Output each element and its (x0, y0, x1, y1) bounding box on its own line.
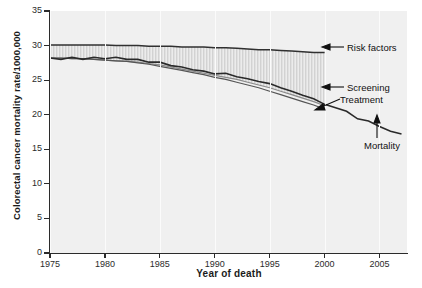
gridline-2000 (325, 11, 326, 253)
x-tick-1985 (159, 253, 160, 258)
gridline-1995 (270, 11, 271, 253)
annotation-treatment: Treatment (340, 94, 383, 105)
y-tick-35 (44, 10, 50, 11)
y-tick-20 (44, 114, 50, 115)
x-axis-line (49, 253, 408, 254)
y-tick-label-25: 25 (16, 74, 42, 84)
gridline-1980 (105, 11, 106, 253)
x-axis-title: Year of death (50, 268, 408, 279)
annotation-mortality: Mortality (364, 140, 400, 151)
gridline-1985 (160, 11, 161, 253)
y-tick-25 (44, 80, 50, 81)
y-tick-label-5: 5 (16, 212, 42, 222)
chart-figure: Colorectal cancer mortality rate/1000,00… (0, 0, 422, 288)
x-tick-2000 (324, 253, 325, 258)
y-tick-15 (44, 149, 50, 150)
y-tick-label-20: 20 (16, 109, 42, 119)
x-tick-1980 (104, 253, 105, 258)
y-tick-label-10: 10 (16, 178, 42, 188)
y-tick-label-15: 15 (16, 143, 42, 153)
y-tick-label-0: 0 (16, 247, 42, 257)
y-tick-30 (44, 45, 50, 46)
y-tick-5 (44, 218, 50, 219)
x-tick-2005 (379, 253, 380, 258)
gridline-1990 (215, 11, 216, 253)
annotation-screening: Screening (347, 82, 390, 93)
y-tick-10 (44, 183, 50, 184)
x-tick-1975 (49, 253, 50, 258)
y-tick-label-30: 30 (16, 40, 42, 50)
shaded-band (50, 45, 325, 106)
annotation-risk-factors: Risk factors (347, 42, 397, 53)
x-tick-1990 (214, 253, 215, 258)
x-tick-1995 (269, 253, 270, 258)
y-tick-label-35: 35 (16, 5, 42, 15)
